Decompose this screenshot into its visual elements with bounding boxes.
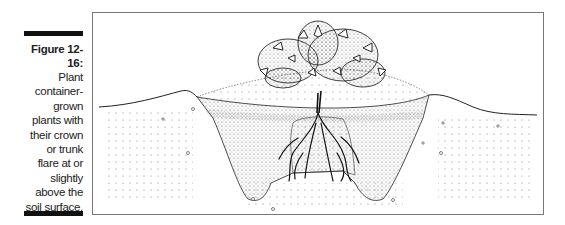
figure-caption: Figure 12-16: Plant container- grown pla… bbox=[24, 31, 83, 214]
caption-label: Figure 12-16: bbox=[24, 42, 83, 70]
caption-bottom-rule bbox=[24, 211, 83, 216]
planting-illustration bbox=[92, 12, 544, 215]
caption-text: Plant container- grown plants with their… bbox=[24, 70, 83, 214]
plant-in-hole-drawing bbox=[93, 13, 543, 214]
caption-top-rule bbox=[24, 31, 83, 36]
